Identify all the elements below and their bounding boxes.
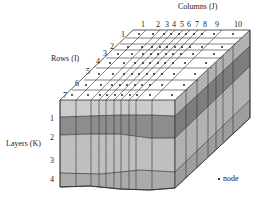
- column-tick: 9: [215, 21, 219, 29]
- layer-tick: 4: [50, 176, 54, 184]
- column-tick: 10: [234, 21, 242, 29]
- column-tick: 6: [187, 21, 191, 29]
- legend-node-dot: [218, 178, 220, 180]
- column-tick: 2: [156, 21, 160, 29]
- column-tick: 3: [165, 21, 169, 29]
- row-tick: 1: [121, 31, 125, 39]
- row-tick: 6: [75, 80, 79, 88]
- row-tick: 2: [110, 43, 114, 51]
- column-tick: 8: [203, 21, 207, 29]
- row-tick: 3: [103, 50, 107, 58]
- column-tick: 4: [172, 21, 176, 29]
- layer-tick: 3: [50, 157, 54, 165]
- layer-tick: 2: [50, 134, 54, 142]
- column-tick: 7: [195, 21, 199, 29]
- front-face: [60, 100, 175, 190]
- row-tick: 4: [96, 58, 100, 66]
- layers-axis-label: Layers (K): [6, 140, 41, 148]
- column-tick: 1: [141, 21, 145, 29]
- rows-axis-label: Rows (I): [51, 55, 79, 63]
- grid-block-diagram: [0, 0, 254, 200]
- row-tick: 7: [63, 92, 67, 100]
- column-tick: 5: [180, 21, 184, 29]
- row-tick: 5: [86, 68, 90, 76]
- layer-tick: 1: [50, 115, 54, 123]
- columns-axis-label: Columns (J): [178, 3, 217, 11]
- legend-node-label: node: [223, 175, 239, 183]
